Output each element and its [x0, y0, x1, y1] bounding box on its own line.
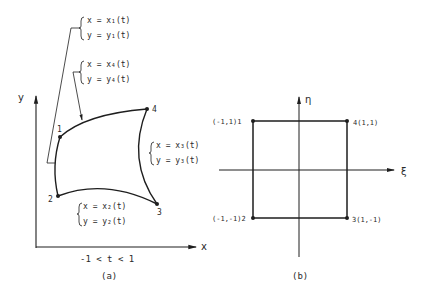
y-axis-label: y [18, 92, 24, 103]
node-label-1: 1 [57, 125, 62, 134]
corner-label-4: 4(1,1) [353, 119, 378, 127]
curve-edge-3 [139, 109, 157, 204]
equation-edge-1: x = x₁(t) y = y₁(t) [79, 16, 130, 40]
node-1 [58, 135, 62, 139]
svg-text:x = x₄(t): x = x₄(t) [87, 60, 130, 69]
xi-axis-label: ξ [401, 166, 407, 177]
brace-icon [77, 203, 82, 226]
node-label-2: 2 [48, 195, 53, 204]
panel-a: y x 1 2 3 4 x = x₁(t) y = y₁(t) x = x₄(t… [18, 16, 207, 281]
curve-edge-4 [60, 109, 147, 137]
svg-text:x = x₂(t): x = x₂(t) [83, 202, 126, 211]
svg-text:y = y₄(t): y = y₄(t) [87, 75, 130, 84]
brace-icon [79, 17, 84, 40]
node-label-4: 4 [152, 105, 157, 114]
svg-text:y = y₁(t): y = y₁(t) [87, 31, 130, 40]
equation-edge-4: x = x₄(t) y = y₄(t) [79, 60, 130, 84]
x-axis-label: x [201, 241, 207, 252]
corner-1 [251, 119, 255, 123]
svg-text:y = y₃(t): y = y₃(t) [156, 156, 199, 165]
node-label-3: 3 [157, 208, 162, 217]
corner-label-3: 3(1,-1) [352, 216, 382, 224]
node-2 [56, 194, 60, 198]
corner-3 [345, 216, 349, 220]
caption-b: (b) [292, 271, 308, 281]
corner-4 [345, 119, 349, 123]
equation-edge-3: x = x₃(t) y = y₃(t) [149, 141, 199, 165]
caption-a: (a) [101, 271, 117, 281]
brace-icon [79, 61, 84, 84]
figure-canvas: y x 1 2 3 4 x = x₁(t) y = y₁(t) x = x₄(t… [0, 0, 427, 301]
corner-2 [251, 216, 255, 220]
svg-text:y = y₂(t): y = y₂(t) [83, 217, 126, 226]
corner-label-2: (-1,-1)2 [212, 215, 246, 223]
curve-edge-1 [55, 137, 60, 196]
leader-edge-1 [47, 28, 80, 163]
node-4 [145, 107, 149, 111]
brace-icon [149, 142, 154, 165]
node-3 [155, 202, 159, 206]
svg-text:x = x₁(t): x = x₁(t) [87, 16, 130, 25]
svg-text:x = x₃(t): x = x₃(t) [156, 141, 199, 150]
eta-axis-label: η [305, 94, 311, 105]
equation-edge-2: x = x₂(t) y = y₂(t) [77, 202, 126, 226]
param-range: -1 < t < 1 [80, 254, 134, 264]
panel-b: η ξ (-1,1)1 (-1,-1)2 3(1,-1) 4(1,1) (b) [212, 94, 407, 281]
corner-label-1: (-1,1)1 [212, 118, 242, 126]
